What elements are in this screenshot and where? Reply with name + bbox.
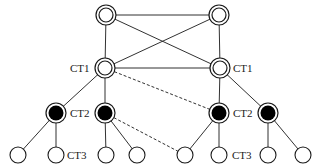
edge-ct2-left-b-to-leaf-5	[105, 113, 185, 155]
label-ct1: CT1	[233, 62, 253, 74]
label-ct3: CT3	[232, 149, 252, 161]
label-ct1: CT1	[70, 62, 90, 74]
node-leaf-8	[295, 147, 311, 163]
node-ct2-left-a	[46, 103, 66, 123]
node-ct1-left	[95, 58, 115, 78]
node-leaf-6	[211, 147, 227, 163]
network-topology-diagram: CT1CT1CT2CT2CT3CT3	[0, 0, 319, 166]
node-ct2-left-b	[95, 103, 115, 123]
node-ct2-right-b	[258, 103, 278, 123]
edge-ct1-left-to-ct2-right-a	[105, 68, 219, 113]
node-leaf-3	[98, 147, 114, 163]
label-ct2: CT2	[233, 107, 253, 119]
nodes-layer	[10, 5, 311, 163]
node-leaf-4	[129, 147, 145, 163]
node-ct2-right-a	[209, 103, 229, 123]
node-leaf-2	[48, 147, 64, 163]
node-leaf-1	[10, 147, 26, 163]
label-ct3: CT3	[67, 149, 87, 161]
edges-layer	[18, 15, 303, 155]
node-leaf-7	[260, 147, 276, 163]
node-leaf-5	[177, 147, 193, 163]
node-ct1-right	[210, 58, 230, 78]
node-top-left	[96, 5, 116, 25]
label-ct2: CT2	[70, 107, 90, 119]
node-top-right	[209, 5, 229, 25]
